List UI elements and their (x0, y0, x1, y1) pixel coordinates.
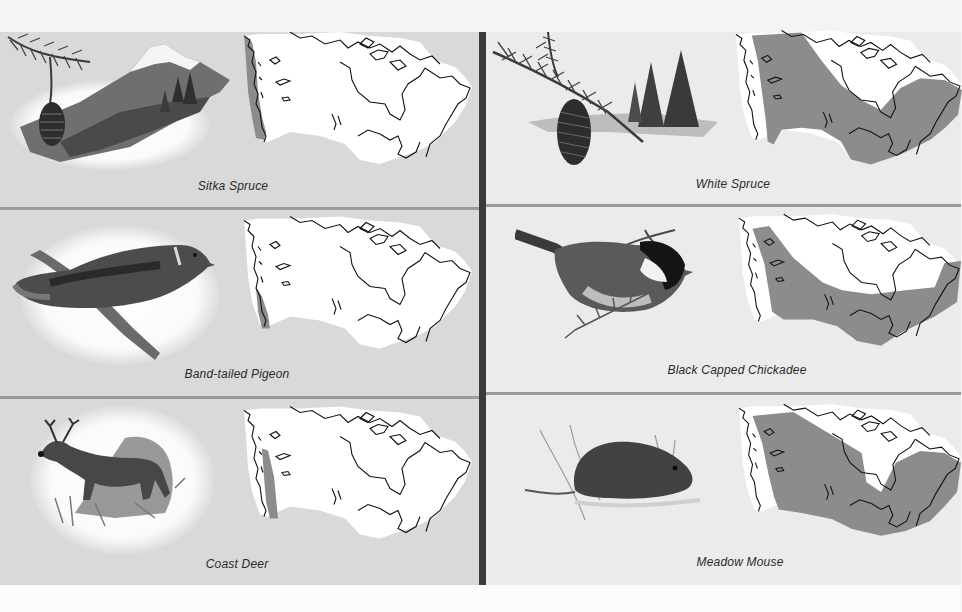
canada-range-map (732, 30, 962, 165)
spruce-branch-mountain-icon (0, 32, 235, 172)
canada-range-map (240, 32, 472, 167)
chickadee-icon (515, 220, 705, 350)
species-caption: Coast Deer (87, 557, 387, 571)
species-caption: Meadow Mouse (590, 555, 890, 569)
canada-range-map (735, 210, 961, 350)
deer-icon (35, 418, 195, 528)
species-caption: Sitka Spruce (83, 179, 383, 193)
spruce-cone-trees-icon (488, 32, 738, 172)
vole-icon (515, 420, 715, 530)
row-divider (0, 396, 479, 399)
row-divider (486, 204, 961, 207)
row-divider (0, 207, 479, 210)
canada-range-map (240, 214, 472, 354)
top-margin (0, 0, 961, 32)
row-divider (486, 392, 961, 395)
species-caption: Band-tailed Pigeon (87, 367, 387, 381)
column-divider (479, 32, 486, 585)
canada-range-map (735, 400, 961, 540)
species-caption: Black Capped Chickadee (587, 363, 887, 377)
pigeon-icon (10, 235, 220, 365)
canada-range-map (240, 404, 472, 544)
species-caption: White Spruce (583, 177, 883, 191)
bottom-margin (0, 585, 961, 612)
